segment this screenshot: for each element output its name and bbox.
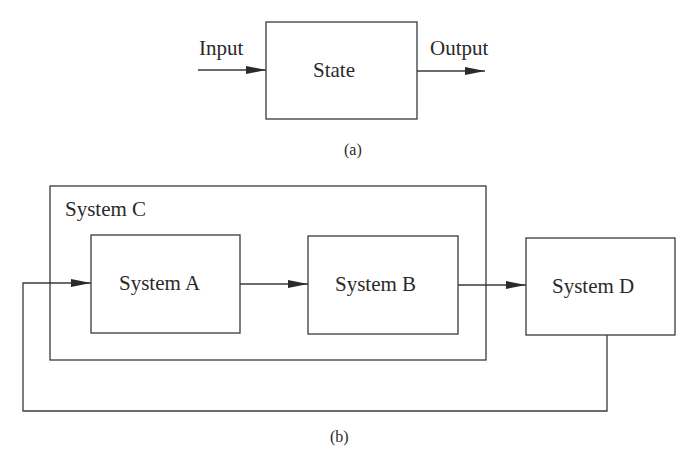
system-b-label: System B (335, 274, 416, 295)
feedback-arrow (23, 283, 607, 411)
output-label: Output (430, 38, 488, 59)
input-label: Input (199, 38, 243, 59)
system-a-label: System A (119, 273, 200, 294)
system-c-label: System C (65, 199, 146, 220)
system-d-label: System D (552, 276, 634, 297)
caption-b: (b) (330, 429, 349, 445)
state-label: State (313, 60, 355, 81)
caption-a: (a) (344, 142, 362, 158)
